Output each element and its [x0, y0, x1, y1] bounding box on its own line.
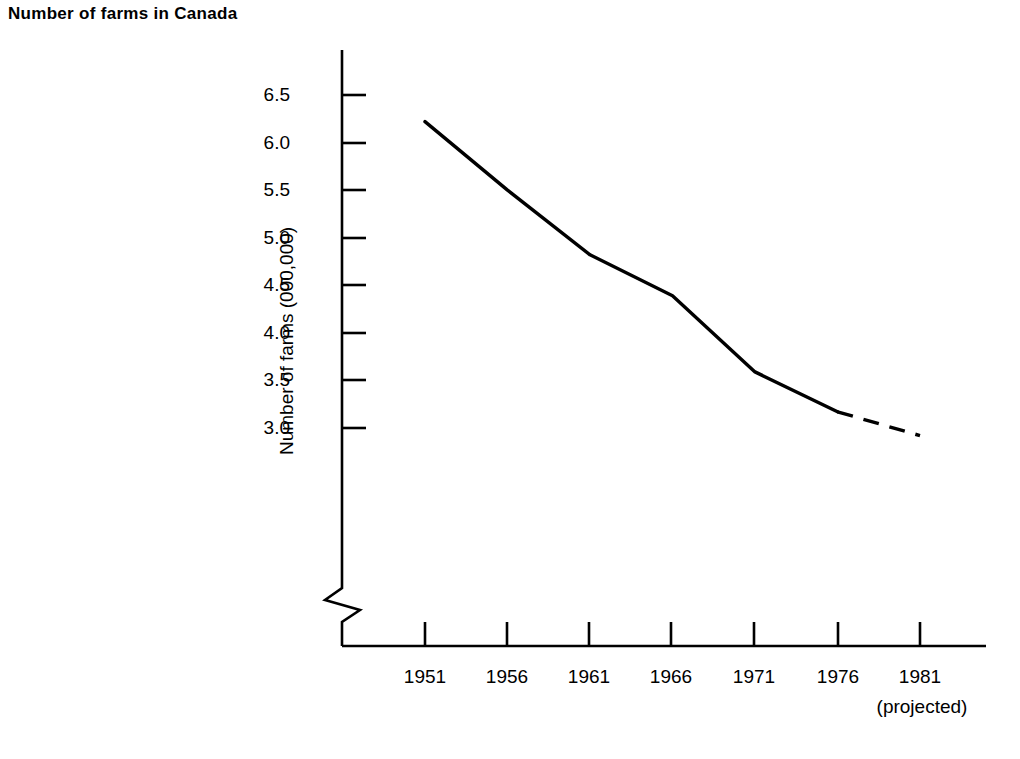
- data-line-projected: [838, 412, 921, 436]
- data-line-observed: [425, 122, 838, 412]
- y-tick-label-5-5: 5.5: [230, 179, 290, 201]
- chart-svg: [0, 0, 1020, 759]
- y-tick-label-6-0: 6.0: [230, 132, 290, 154]
- y-axis-title: Number of farms (000,000): [276, 227, 298, 455]
- y-axis-ticks: [342, 95, 366, 428]
- x-tick-label-1981: 1981: [870, 666, 970, 688]
- y-axis-break-zigzag: [325, 578, 360, 646]
- x-axis-projected-note: (projected): [842, 696, 1002, 718]
- chart-plot-area: 6.5 6.0 5.5 5.0 4.5 4.0 3.5 3.0 1951 195…: [0, 0, 1020, 759]
- y-tick-label-6-5: 6.5: [230, 84, 290, 106]
- x-axis-ticks: [425, 622, 920, 646]
